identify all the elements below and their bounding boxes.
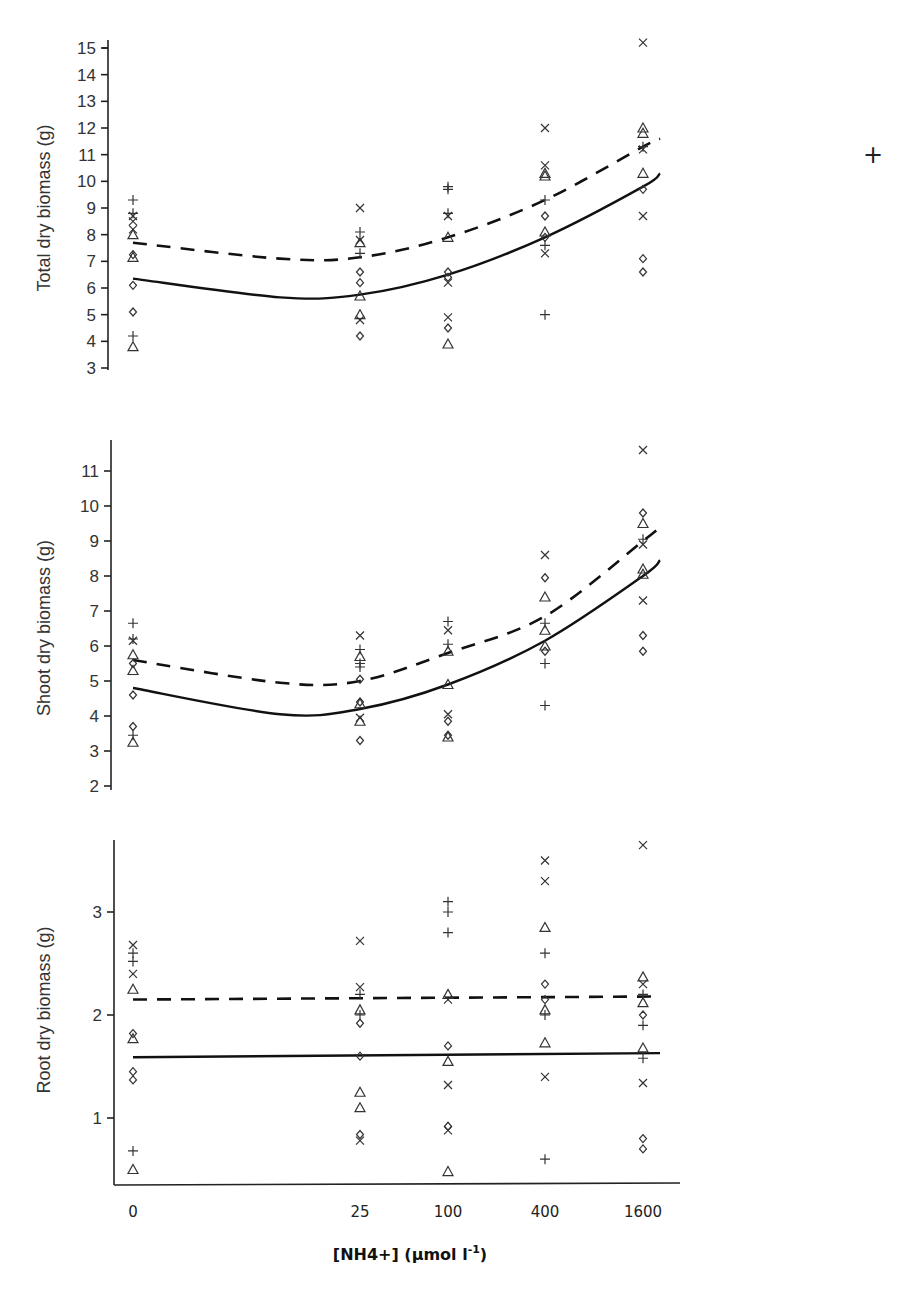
panel-shoot-biomass: Shoot dry biomass (g) 234567891011	[34, 440, 660, 796]
marker-triangle-icon	[540, 922, 550, 931]
marker-diamond-icon	[542, 212, 549, 220]
y-tick-label: 5	[87, 306, 96, 325]
y-tick-label: 2	[90, 777, 99, 796]
marker-diamond-icon	[357, 268, 364, 276]
marker-diamond-icon	[445, 324, 452, 332]
marker-triangle-icon	[638, 972, 648, 981]
marker-diamond-icon	[130, 1076, 137, 1084]
marker-cross-icon	[356, 937, 364, 945]
marker-triangle-icon	[638, 1043, 648, 1052]
marker-diamond-icon	[130, 1068, 137, 1076]
marker-plus-icon	[443, 928, 453, 938]
marker-plus-icon	[128, 618, 138, 628]
marker-diamond-icon	[640, 268, 647, 276]
panel-root-biomass: Root dry biomass (g) 123 0251004001600	[34, 840, 680, 1221]
x-ticks: 0251004001600	[114, 1183, 680, 1221]
marker-plus-icon	[540, 1154, 550, 1164]
marker-triangle-icon	[128, 984, 138, 993]
marker-plus-icon	[540, 618, 550, 628]
marker-diamond-icon	[130, 308, 137, 316]
marker-plus-icon	[443, 897, 453, 907]
marker-cross-icon	[356, 204, 364, 212]
marker-diamond-icon	[130, 281, 137, 289]
y-tick-label: 3	[93, 903, 102, 922]
marker-diamond-icon	[640, 509, 647, 517]
y-tick-label: 15	[77, 39, 96, 58]
marker-diamond-icon	[357, 332, 364, 340]
marker-cross-icon	[444, 626, 452, 634]
y-axis-label-shoot: Shoot dry biomass (g)	[34, 540, 54, 716]
marker-diamond-icon	[640, 1135, 647, 1143]
marker-diamond-icon	[357, 737, 364, 745]
fit-dashed-line	[133, 139, 660, 261]
x-tick-label: 0	[128, 1203, 138, 1221]
fit-lines-total	[133, 139, 660, 299]
fit-dashed-line	[133, 527, 660, 685]
y-axis-label-total: Total dry biomass (g)	[34, 124, 54, 291]
marker-plus-icon	[443, 907, 453, 917]
marker-plus-icon	[638, 1053, 648, 1063]
y-ticks-shoot: 234567891011	[80, 440, 111, 796]
y-tick-label: 7	[90, 602, 99, 621]
marker-diamond-icon	[640, 1145, 647, 1153]
marker-plus-icon	[540, 659, 550, 669]
y-tick-label: 6	[90, 637, 99, 656]
marker-cross-icon	[444, 1126, 452, 1134]
x-tick-label: 1600	[624, 1203, 662, 1221]
marker-diamond-icon	[357, 279, 364, 287]
marker-diamond-icon	[445, 717, 452, 725]
fit-solid-line	[133, 1053, 660, 1057]
marker-diamond-icon	[357, 1019, 364, 1027]
y-tick-label: 10	[80, 497, 99, 516]
y-tick-label: 8	[87, 226, 96, 245]
marker-triangle-icon	[443, 1056, 453, 1065]
marker-diamond-icon	[640, 1011, 647, 1019]
marker-diamond-icon	[542, 980, 549, 988]
marker-triangle-icon	[443, 1167, 453, 1176]
fit-dashed-line	[133, 996, 660, 999]
marker-triangle-icon	[128, 650, 138, 659]
marker-triangle-icon	[355, 1103, 365, 1112]
fit-lines-shoot	[133, 527, 660, 716]
marker-plus-icon	[128, 634, 138, 644]
marker-diamond-icon	[130, 723, 137, 731]
marker-cross-icon	[541, 124, 549, 132]
marker-triangle-icon	[638, 168, 648, 177]
marker-plus-icon	[128, 1146, 138, 1156]
y-tick-label: 8	[90, 567, 99, 586]
marker-plus-icon	[443, 184, 453, 194]
y-ticks-total: 3456789101112131415	[77, 39, 108, 378]
marker-cross-icon	[541, 249, 549, 257]
y-tick-label: 1	[93, 1109, 102, 1128]
marker-diamond-icon	[445, 1042, 452, 1050]
y-ticks-root: 123	[93, 840, 114, 1185]
x-tick-label: 25	[350, 1203, 369, 1221]
marker-plus-icon	[128, 956, 138, 966]
marker-diamond-icon	[357, 1130, 364, 1138]
marker-cross-icon	[639, 597, 647, 605]
x-axis-line	[114, 1183, 680, 1185]
x-tick-label: 400	[531, 1203, 560, 1221]
y-tick-label: 3	[87, 359, 96, 378]
y-tick-label: 11	[81, 462, 99, 481]
marker-cross-icon	[541, 1073, 549, 1081]
marker-plus-icon	[128, 730, 138, 740]
marker-triangle-icon	[443, 339, 453, 348]
y-tick-label: 7	[87, 252, 96, 271]
y-tick-label: 12	[77, 119, 96, 138]
marker-plus-icon	[540, 701, 550, 711]
marker-cross-icon	[129, 941, 137, 949]
marker-plus-icon	[638, 534, 648, 544]
marker-plus-icon	[355, 227, 365, 237]
marker-plus-icon	[128, 195, 138, 205]
y-tick-label: 9	[87, 199, 96, 218]
marker-cross-icon	[541, 877, 549, 885]
y-tick-label: 13	[77, 92, 96, 111]
marker-triangle-icon	[638, 519, 648, 528]
marker-diamond-icon	[640, 632, 647, 640]
marker-plus-icon	[540, 310, 550, 320]
marker-plus-icon	[540, 240, 550, 250]
y-tick-label: 6	[87, 279, 96, 298]
marker-triangle-icon	[540, 168, 550, 177]
y-tick-label: 5	[90, 672, 99, 691]
